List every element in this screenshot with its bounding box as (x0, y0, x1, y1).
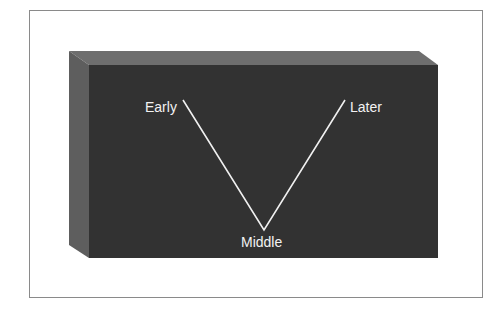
label-early: Early (145, 100, 177, 114)
label-middle: Middle (241, 235, 282, 249)
block-side-face (69, 51, 89, 258)
block-top-face (69, 51, 438, 65)
block-diagram (0, 0, 494, 313)
label-later: Later (350, 100, 382, 114)
